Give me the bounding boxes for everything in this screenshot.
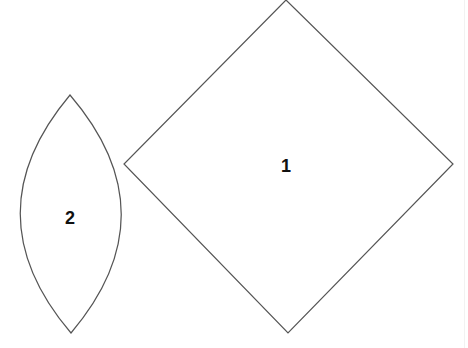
diagram-canvas: 1 2 — [0, 0, 468, 348]
diamond-label: 1 — [281, 156, 291, 176]
lens-shape: 2 — [20, 95, 121, 333]
right-edge-divider — [464, 0, 465, 348]
lens-label: 2 — [65, 208, 75, 228]
diamond-shape: 1 — [124, 0, 453, 333]
